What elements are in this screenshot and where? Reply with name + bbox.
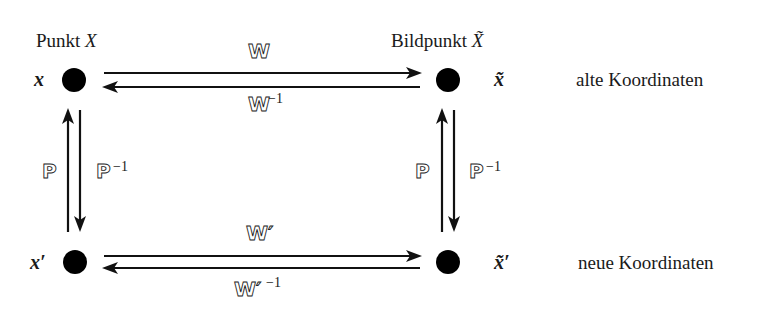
node-label-x-prime: x′ (29, 251, 46, 273)
svg-text:−1: −1 (268, 91, 283, 106)
arrow-bottom-backward-w-prime-inverse (102, 262, 420, 274)
edge-label-p-inverse-left: P −1 (96, 159, 128, 183)
node-dot-x (62, 68, 86, 92)
svg-text:W: W (248, 92, 270, 116)
node-label-x-tilde-prime: x̃′ (493, 251, 510, 273)
arrow-top-forward-w (104, 67, 422, 79)
edge-label-w-inverse: W −1 (248, 91, 283, 116)
node-label-x-tilde: x̃ (493, 68, 505, 90)
title-punkt-x: Punkt X (36, 30, 98, 51)
node-dot-x-prime (63, 250, 87, 274)
arrow-right-down-p-inverse (448, 110, 460, 232)
coordinate-transformation-diagram: Punkt X Bildpunkt X̃ x x̃ x′ x̃′ alte Ko… (0, 0, 762, 317)
edge-label-p-inverse-right: P −1 (469, 159, 501, 183)
arrow-left-up-p (62, 108, 74, 232)
row-label-alte-koordinaten: alte Koordinaten (576, 69, 704, 90)
svg-text:−1: −1 (266, 275, 281, 290)
node-dot-x-tilde (436, 68, 460, 92)
svg-text:P: P (96, 159, 111, 183)
edge-label-w-prime-inverse: W′ −1 (234, 275, 281, 301)
svg-text:P: P (469, 159, 484, 183)
edge-label-p-right: P (415, 159, 430, 183)
edge-label-w-prime: W′ (246, 221, 273, 245)
node-dot-x-tilde-prime (436, 250, 460, 274)
edge-label-p-left: P (42, 159, 57, 183)
title-bildpunkt-x-tilde: Bildpunkt X̃ (391, 30, 485, 51)
row-label-neue-koordinaten: neue Koordinaten (578, 252, 714, 273)
node-label-x: x (33, 68, 44, 90)
svg-text:W′: W′ (234, 277, 261, 301)
arrow-left-down-p-inverse (74, 110, 86, 232)
arrow-bottom-forward-w-prime (104, 250, 422, 262)
svg-text:−1: −1 (113, 159, 128, 174)
svg-text:−1: −1 (486, 159, 501, 174)
edge-label-w: W (248, 39, 270, 63)
arrow-right-up-p (436, 108, 448, 232)
